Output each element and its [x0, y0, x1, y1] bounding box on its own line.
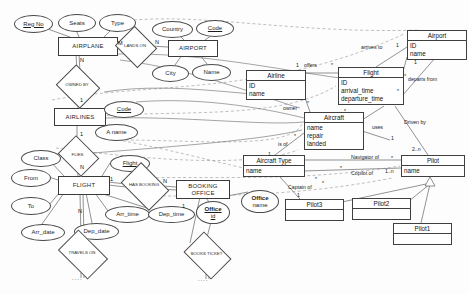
uml-class-pilot3-name: Pilot3: [286, 200, 343, 210]
er-relationship-books-ticket-label: BOOKS TICKET: [188, 241, 225, 268]
er-entity-booking-office-label: BOOKING OFFICE: [177, 183, 229, 197]
uml-class-aircraft[interactable]: Aircraft name repair landed: [304, 112, 364, 150]
uml-label-captain-of: Captain of: [288, 184, 312, 190]
uml-class-pilot2[interactable]: Pilot2: [352, 198, 411, 220]
uml-multiplicity-type-star: *: [340, 165, 342, 171]
er-relationship-lands-on-label: LANDS ON: [120, 33, 150, 59]
uml-multiplicity-pilot-2n: 2..n: [412, 146, 421, 152]
er-attribute-reg-no[interactable]: Reg No: [14, 15, 53, 33]
er-attribute-office-id[interactable]: Office id: [196, 201, 230, 224]
uml-attr: name: [307, 124, 361, 132]
uml-class-pilot3[interactable]: Pilot3: [285, 199, 344, 221]
er-attribute-office-name-sub: name: [252, 202, 267, 209]
er-attribute-dep-time[interactable]: Dep_time: [148, 206, 195, 223]
er-relationship-has-booking[interactable]: HAS BOOKING: [125, 172, 163, 199]
uml-multiplicity-isof-star: *: [294, 133, 296, 139]
uml-multiplicity-flight-star-b: *: [397, 88, 399, 94]
er-attribute-arr-date[interactable]: Arr_date: [21, 224, 65, 241]
uml-multiplicity-offers-1: 1: [296, 62, 299, 68]
er-relationship-books-ticket[interactable]: BOOKS TICKET: [188, 241, 225, 268]
cardinality-flight-1: 1: [110, 176, 113, 182]
uml-class-airport-attributes: ID name: [408, 41, 466, 59]
er-attribute-airlines-code-label: Code: [117, 106, 131, 113]
er-relationship-owned-by-label: OWNED BY: [61, 72, 93, 99]
er-attribute-airport-name[interactable]: Name: [192, 64, 231, 81]
er-entity-booking-office[interactable]: BOOKING OFFICE: [176, 180, 230, 199]
generalization-triangle: [425, 177, 435, 186]
uml-multiplicity-pilot-star: *: [391, 155, 393, 161]
uml-label-driven-by: Driven by: [404, 119, 426, 125]
cardinality-airlines-1: 1: [80, 97, 83, 103]
er-attribute-class[interactable]: Class: [21, 150, 61, 167]
cardinality-airlines-flies-1: 1: [80, 131, 83, 137]
er-attribute-arr-time[interactable]: Arr_time: [105, 206, 150, 223]
er-attribute-from-label: From: [24, 175, 38, 182]
uml-class-pilot3-attributes: [286, 210, 343, 220]
er-entity-airport[interactable]: AIRPORT: [168, 40, 218, 57]
uml-class-flight[interactable]: Flight ID arrival_time departure_time: [338, 67, 404, 105]
uml-class-aircraft-type[interactable]: Aircraft Type name: [243, 155, 305, 177]
er-attribute-a-name-label: A name: [106, 129, 126, 136]
uml-label-arrives-to: arrives to: [361, 44, 382, 50]
uml-multiplicity-airline-star: *: [307, 100, 309, 106]
er-attribute-a-name[interactable]: A name: [95, 124, 138, 141]
uml-label-uses: uses: [372, 124, 383, 130]
er-attribute-airport-code[interactable]: Code: [196, 20, 234, 37]
er-attribute-airport-code-label: Code: [208, 25, 222, 32]
er-attribute-country[interactable]: Country: [152, 21, 193, 38]
er-relationship-travels-on-label: TRAVELS ON: [62, 240, 102, 267]
cardinality-airplane-m: M: [118, 40, 123, 46]
uml-class-pilot1[interactable]: Pilot1: [393, 223, 452, 245]
er-attribute-seats-label: Seats: [69, 20, 84, 27]
er-entity-airplane-label: AIRPLANE: [72, 43, 103, 50]
er-attribute-airlines-code[interactable]: Code: [104, 101, 144, 118]
uml-class-pilot1-attributes: [394, 234, 451, 244]
uml-class-airline[interactable]: Airline ID name: [246, 70, 306, 100]
uml-attr: name: [246, 167, 302, 175]
uml-class-pilot-attributes: name: [402, 166, 464, 176]
uml-class-aircraft-type-name: Aircraft Type: [244, 156, 304, 166]
uml-label-navigator-of: Navigator of: [351, 154, 379, 160]
er-attribute-to-label: To: [28, 203, 34, 210]
uml-class-pilot-name: Pilot: [402, 156, 464, 166]
uml-class-airline-attributes: ID name: [247, 81, 305, 99]
ellipsis-marker-travels: ....: [72, 275, 83, 281]
cardinality-airplane-n: N: [80, 57, 84, 63]
uml-multiplicity-copilot-1n: 1..n: [385, 168, 394, 174]
uml-multiplicity-aircrafttype-star: *: [315, 176, 317, 182]
uml-attr: ID: [341, 79, 401, 87]
er-uml-diagram-canvas: AIRPLANE AIRPORT AIRLINES FLIGHT BOOKING…: [0, 0, 469, 294]
er-relationship-travels-on[interactable]: TRAVELS ON: [62, 240, 102, 267]
uml-class-aircraft-name: Aircraft: [305, 113, 363, 123]
er-attribute-city[interactable]: City: [152, 65, 189, 82]
er-attribute-office-name[interactable]: Office name: [241, 190, 279, 213]
cardinality-office-1: 1: [182, 203, 185, 209]
er-attribute-arr-time-label: Arr_time: [116, 211, 139, 218]
uml-class-pilot1-name: Pilot1: [394, 224, 451, 234]
er-relationship-flies[interactable]: FLIES: [62, 143, 93, 167]
er-attribute-from[interactable]: From: [11, 169, 51, 187]
uml-multiplicity-offers-star: *: [331, 62, 333, 68]
er-attribute-seats[interactable]: Seats: [58, 14, 96, 32]
uml-class-pilot[interactable]: Pilot name: [401, 155, 465, 177]
uml-class-airport[interactable]: Airport ID name: [407, 30, 467, 60]
er-attribute-country-label: Country: [162, 26, 183, 33]
er-entity-airplane[interactable]: AIRPLANE: [58, 37, 118, 56]
uml-multiplicity-uses-1: 1: [391, 135, 394, 141]
er-attribute-dep-date-label: Dep_date: [83, 228, 109, 235]
uml-class-flight-name: Flight: [339, 68, 403, 78]
er-attribute-office-id-sub: id: [211, 213, 216, 220]
uml-multiplicity-captain-1: 1: [297, 192, 300, 198]
er-entity-airlines[interactable]: AIRLINES: [54, 108, 106, 126]
uml-multiplicity-isof-1: 1: [268, 151, 271, 157]
er-relationship-owned-by[interactable]: OWNED BY: [61, 72, 93, 99]
er-attribute-to[interactable]: To: [11, 197, 51, 215]
er-attribute-airport-name-label: Name: [203, 69, 219, 76]
uml-attr: name: [404, 167, 462, 175]
cardinality-booking-n: N: [163, 178, 167, 184]
uml-multiplicity-airport-1a: 1: [396, 42, 399, 48]
uml-label-is-of: is of: [278, 141, 288, 147]
er-attribute-reg-no-label: Reg No: [23, 21, 43, 28]
er-relationship-lands-on[interactable]: LANDS ON: [120, 33, 150, 59]
er-entity-flight[interactable]: FLIGHT: [58, 176, 110, 195]
